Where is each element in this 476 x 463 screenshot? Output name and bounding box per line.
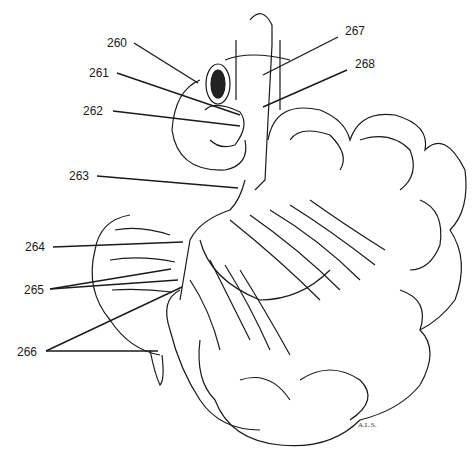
appendix <box>150 350 163 385</box>
jejunum-loops <box>199 108 466 446</box>
label-268: 268 <box>355 57 375 71</box>
intestine-illustration: A.L.S. <box>0 0 476 463</box>
label-267: 267 <box>345 24 365 38</box>
label-266: 266 <box>17 345 37 359</box>
leader-265a <box>50 269 171 289</box>
label-262: 262 <box>83 104 103 118</box>
anatomy-figure: A.L.S. 260 261 262 263 264 265 266 267 2… <box>0 0 476 463</box>
label-263: 263 <box>69 169 89 183</box>
leader-264 <box>53 242 183 247</box>
leader-263 <box>97 176 238 188</box>
leader-265b <box>50 280 178 289</box>
terminal-ileum <box>167 290 260 430</box>
leader-268 <box>263 70 347 107</box>
leader-262 <box>113 111 240 126</box>
artist-signature: A.L.S. <box>358 421 377 429</box>
label-265: 265 <box>24 283 44 297</box>
leader-266a <box>46 287 182 351</box>
leader-267 <box>263 37 338 75</box>
aorta-vessel <box>250 14 272 190</box>
label-260: 260 <box>107 36 127 50</box>
leader-260 <box>134 43 198 83</box>
label-261: 261 <box>89 66 109 80</box>
label-264: 264 <box>25 240 45 254</box>
